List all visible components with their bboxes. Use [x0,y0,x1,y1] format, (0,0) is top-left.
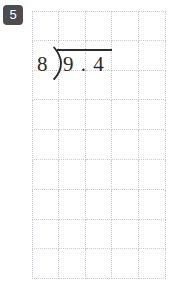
worksheet-grid[interactable]: 8 9 . 4 [32,11,166,279]
grid-cell[interactable] [32,249,59,279]
grid-cell[interactable] [139,220,166,250]
grid-cell[interactable] [86,160,113,190]
grid-cell[interactable] [139,190,166,220]
grid-cell[interactable] [112,190,139,220]
grid-cell[interactable] [32,71,59,101]
grid-cell[interactable] [86,130,113,160]
grid-cell[interactable] [86,11,113,41]
grid-cell[interactable] [139,11,166,41]
grid-cell[interactable] [139,130,166,160]
problem-number-badge: 5 [3,5,23,25]
grid-cell[interactable] [32,130,59,160]
grid-cell[interactable] [86,249,113,279]
grid-cell[interactable] [112,71,139,101]
grid-cell[interactable] [59,249,86,279]
grid-cell[interactable] [139,100,166,130]
grid-cell[interactable] [59,130,86,160]
grid-cell[interactable] [112,249,139,279]
grid-cell[interactable] [139,249,166,279]
grid-cell[interactable] [59,220,86,250]
grid-cell[interactable] [59,190,86,220]
grid-cell[interactable] [139,41,166,71]
grid-cell[interactable] [32,11,59,41]
grid-cell[interactable] [59,11,86,41]
grid-cell[interactable] [32,41,59,71]
grid-cell[interactable] [59,41,86,71]
grid-cell[interactable] [32,220,59,250]
grid-cell[interactable] [59,71,86,101]
grid-lines [32,11,166,279]
grid-cell[interactable] [112,11,139,41]
grid-cell[interactable] [59,100,86,130]
grid-cell[interactable] [112,220,139,250]
grid-cell[interactable] [32,100,59,130]
grid-cell[interactable] [112,41,139,71]
grid-cell[interactable] [86,71,113,101]
grid-cell[interactable] [86,41,113,71]
grid-cell[interactable] [32,160,59,190]
grid-cell[interactable] [86,190,113,220]
grid-cell[interactable] [112,100,139,130]
grid-cell[interactable] [112,160,139,190]
grid-cell[interactable] [86,220,113,250]
grid-cell[interactable] [32,190,59,220]
grid-cell[interactable] [139,160,166,190]
grid-cell[interactable] [86,100,113,130]
grid-cell[interactable] [112,130,139,160]
grid-cell[interactable] [59,160,86,190]
grid-cell[interactable] [139,71,166,101]
